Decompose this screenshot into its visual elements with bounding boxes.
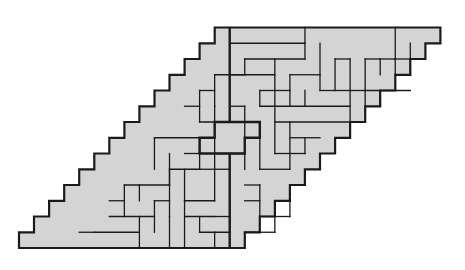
tiling-diagram bbox=[0, 0, 465, 270]
tiling-svg bbox=[0, 0, 465, 270]
